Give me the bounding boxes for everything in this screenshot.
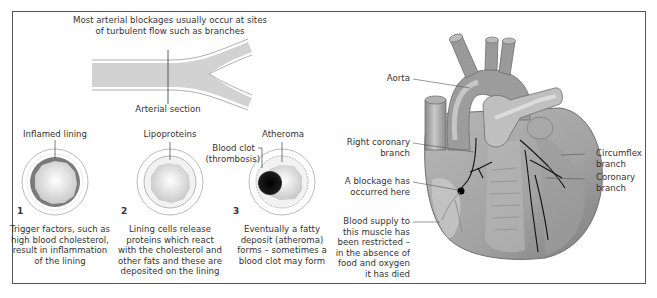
- stage-2-label: Lipoproteins: [130, 129, 210, 140]
- blood-clot-label-2: (thrombosis): [190, 154, 260, 165]
- stage-3-label: Atheroma: [243, 129, 323, 140]
- stage-2-caption: Lining cells release proteins which reac…: [118, 224, 222, 277]
- blockage-label: A blockage has occurred here: [340, 176, 410, 197]
- blood-clot-label-1: Blood clot: [200, 143, 255, 154]
- stage-2-cross-section: [137, 142, 203, 215]
- blood-supply-label: Blood supply to this muscle has been res…: [330, 216, 410, 280]
- heart-illustration: [425, 32, 603, 259]
- coronary-label: Coronary branch: [596, 172, 635, 193]
- stage-3-caption: Eventually a fatty deposit (atheroma) fo…: [232, 224, 332, 266]
- right-coronary-label: Right coronary branch: [340, 137, 410, 158]
- stage-1-caption: Trigger factors, such as high blood chol…: [10, 224, 110, 266]
- stage-1-cross-section: [22, 140, 88, 215]
- stage-3-number: 3: [233, 206, 239, 216]
- artery-section-label: Arterial section: [118, 104, 218, 115]
- artery-branch-illustration: [92, 39, 252, 110]
- stage-2-number: 2: [121, 206, 127, 216]
- stage-1-number: 1: [17, 206, 23, 216]
- stage-1-label: Inflamed lining: [15, 129, 95, 140]
- circumflex-label: Circumflex branch: [596, 148, 642, 169]
- aorta-label: Aorta: [360, 73, 410, 84]
- title-line-1: Most arterial blockages usually occur at…: [70, 15, 270, 26]
- stage-3-cross-section: [249, 142, 315, 215]
- title-line-2: of turbulent flow such as branches: [70, 26, 270, 37]
